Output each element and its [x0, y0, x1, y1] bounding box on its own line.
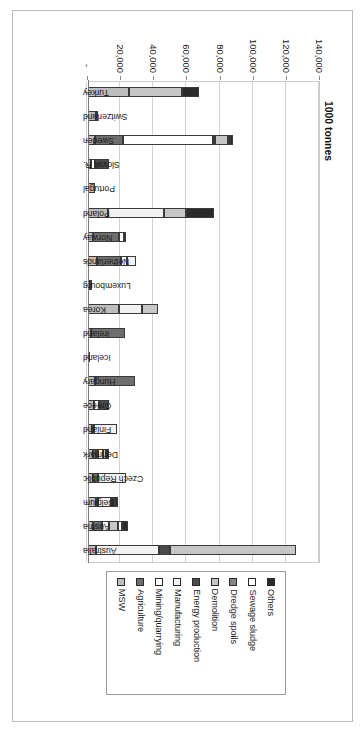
legend-swatch-icon [155, 578, 163, 586]
value-tick-label: 40,000 [148, 42, 159, 73]
bar-segment [108, 208, 164, 218]
legend-label: Others [266, 589, 275, 616]
legend-item: MSW [112, 578, 131, 690]
legend-item: Dredge spoils [224, 578, 243, 690]
bar-segment [230, 135, 233, 145]
bar-segment [109, 521, 119, 531]
category-label: Australia [83, 546, 116, 556]
bar-segment [115, 497, 118, 507]
category-label: Austria [83, 522, 110, 532]
category-label: Sweden [83, 136, 114, 146]
value-tick [286, 76, 287, 80]
legend-swatch-icon [136, 578, 144, 586]
value-tick [319, 76, 320, 80]
category-label: Korea [83, 305, 106, 315]
category-label: Czech Republic [83, 474, 143, 484]
legend-item: Manufacturing [168, 578, 187, 690]
legend-swatch-icon [173, 578, 181, 586]
value-tick [220, 76, 221, 80]
category-label: Hungary [83, 377, 115, 387]
bar-row [88, 545, 296, 555]
bar-segment [215, 135, 228, 145]
plot-area [88, 81, 320, 563]
legend-item: Sewage sludge [243, 578, 262, 690]
value-tick-label: 20,000 [115, 42, 126, 73]
bar-segment [186, 208, 214, 218]
value-tick-label: 80,000 [215, 42, 226, 73]
legend-item: Demolition [205, 578, 224, 690]
bar-segment [119, 304, 142, 314]
category-axis [88, 80, 89, 563]
category-label: Greece [83, 401, 111, 411]
figure-rotator: OthersSewage sludgeDredge spoilsDemoliti… [0, 0, 361, 732]
bar-segment [142, 304, 159, 314]
category-label: Finland [83, 425, 111, 435]
category-label: Luxembourg [83, 281, 131, 291]
legend-label: Energy production [191, 589, 200, 662]
legend-swatch-icon [229, 578, 237, 586]
bar-series-group [88, 82, 319, 562]
category-label: Iceland [83, 353, 111, 363]
value-tick [120, 76, 121, 80]
bar-segment [119, 232, 124, 242]
legend-item: Mining/quarrying [149, 578, 168, 690]
bar-segment [123, 135, 212, 145]
legend-swatch-icon [267, 578, 275, 586]
legend-label: Agriculture [135, 589, 144, 632]
value-tick [186, 76, 187, 80]
legend-label: Demolition [210, 589, 219, 631]
category-label: Poland [83, 209, 110, 219]
value-tick-label: 120,000 [281, 37, 292, 73]
axis-title: 1000 tonnes [323, 101, 334, 161]
bar-segment [170, 545, 296, 555]
bar-segment [129, 87, 182, 97]
value-tick [253, 76, 254, 80]
category-label: Netherlands [83, 257, 129, 267]
value-tick-label: 100,000 [248, 37, 259, 73]
category-label: Belgium [83, 498, 114, 508]
figure-frame: OthersSewage sludgeDredge spoilsDemoliti… [12, 10, 353, 722]
legend-swatch-icon [248, 578, 256, 586]
gridline [86, 82, 87, 562]
legend-item: Others [261, 578, 280, 690]
bar-segment [182, 87, 199, 97]
category-label: Slovak R. [83, 160, 120, 170]
legend-label: Manufacturing [173, 589, 182, 646]
bar-segment [122, 521, 128, 531]
category-label: Portugal [83, 184, 115, 194]
legend-label: Sewage sludge [247, 589, 256, 651]
bar-segment [164, 208, 186, 218]
chart-legend: OthersSewage sludgeDredge spoilsDemoliti… [106, 571, 286, 695]
bar-segment [213, 135, 215, 145]
bar-segment [159, 545, 170, 555]
legend-swatch-icon [192, 578, 200, 586]
legend-item: Energy production [187, 578, 206, 690]
value-tick [153, 76, 154, 80]
bar-segment [124, 232, 126, 242]
category-label: Ireland [83, 329, 109, 339]
category-label: Turkey [83, 88, 109, 98]
legend-swatch-icon [211, 578, 219, 586]
bar-segment [118, 521, 121, 531]
value-tick [87, 76, 88, 80]
category-label: Norway [83, 233, 112, 243]
legend-label: Mining/quarrying [154, 589, 163, 655]
legend-label: Dredge spoils [229, 589, 238, 644]
legend-label: MSW [117, 589, 126, 611]
value-tick-label: 140,000 [314, 37, 325, 73]
value-tick-label: - [82, 62, 93, 73]
bar-segment [228, 135, 230, 145]
category-label: Switzerland [83, 112, 127, 122]
value-tick-label: 60,000 [181, 42, 192, 73]
category-label: Denmark [83, 450, 118, 460]
legend-item: Agriculture [131, 578, 150, 690]
legend-swatch-icon [117, 578, 125, 586]
